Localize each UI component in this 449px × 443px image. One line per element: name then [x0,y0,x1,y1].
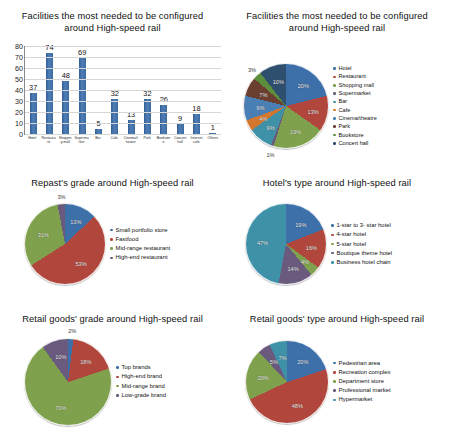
bar-plot: 377448695321332269181 01020304050607080 [24,46,221,135]
gridline [25,57,221,58]
legend-swatch-icon [331,261,334,264]
legend-item[interactable]: Concert hall [333,140,445,147]
bar[interactable] [160,105,167,134]
legend-item[interactable]: Shopping mall [333,82,445,89]
pie-facilities: 20%13%19%1%9%4%9%7%3%10% [243,63,329,149]
x-axis-label: Bookstore [155,136,171,144]
legend-label: 4-star hotel [337,231,366,238]
bar[interactable] [30,93,37,134]
legend-item[interactable]: Park [333,123,445,130]
legend-label: Small portfolio store [116,227,168,234]
legend-swatch-icon [333,92,336,95]
legend-item[interactable]: Cinema/theatre [333,115,445,122]
pie-repast: 13%53%31%3% [24,203,106,285]
legend-item[interactable]: Hypermarket [333,396,445,403]
pie-slice-label: 14% [288,266,299,272]
legend-item[interactable]: Bar [333,98,445,105]
pie-slice-label: 16% [306,245,317,251]
legend-item[interactable]: Fastfood [110,236,221,243]
bar[interactable] [111,99,118,134]
pie-slice-label: 1% [266,152,274,158]
legend-label: Hypermarket [339,396,373,403]
gridline [25,134,221,135]
gridline [25,101,221,102]
pie-slice-label: 19% [290,129,301,135]
legend-item[interactable]: Business hotel chain [331,259,445,266]
legend-item[interactable]: Recreation complex [333,369,445,376]
legend-item[interactable]: Hotel [333,65,445,72]
gridline [25,112,221,113]
bar[interactable] [193,114,200,134]
legend-item[interactable]: Low-grade brand [116,392,221,399]
pie-slice-label: 47% [257,240,268,246]
legend-label: Low-grade brand [122,392,167,399]
chart-title: Retail goods' type around High-speed rai… [225,305,449,326]
legend-swatch-icon [333,380,336,383]
legend-swatch-icon [116,366,119,369]
x-axis-label: Concert hall [172,136,188,144]
gridline [25,123,221,124]
gridline [25,90,221,91]
legend-label: Professional market [339,387,391,394]
legend-label: Fastfood [116,236,139,243]
legend-swatch-icon [333,389,336,392]
charts-grid: Facilities the most needed to be configu… [0,0,449,443]
legend-item[interactable]: 4-star hotel [331,231,445,238]
x-axis-label: Others [205,136,221,144]
legend-item[interactable]: Mid-range brand [116,383,221,390]
pie-slice-label: 10% [273,79,284,85]
legend-swatch-icon [333,125,336,128]
bar-chart-area: 377448695321332269181 01020304050607080 … [2,42,223,162]
legend-item[interactable]: Restaurant [333,73,445,80]
legend-item[interactable]: Bookstore [333,132,445,139]
legend-label: Mid-range restaurant [116,245,171,252]
legend-label: Pedestrian area [339,360,381,367]
legend-swatch-icon [333,371,336,374]
y-axis-tick: 80 [15,42,23,51]
legend-swatch-icon [333,101,336,104]
y-axis-tick: 10 [15,119,23,128]
pie-slice-label: 4% [259,116,267,122]
legend-item[interactable]: Department store [333,378,445,385]
gridline [25,79,221,80]
legend-label: Park [339,123,351,130]
legend-item[interactable]: 5-star hotel [331,241,445,248]
chart-facilities-bar: Facilities the most needed to be configu… [0,0,225,170]
pie-slice-label: 19% [295,222,306,228]
pie-slice-label: 18% [80,359,91,365]
pie-hotel-type: 19%16%4%14%47% [245,203,327,285]
bar[interactable] [144,99,151,134]
legend-swatch-icon [110,238,113,241]
y-axis-tick: 60 [15,64,23,73]
legend-item[interactable]: 1-star to 3- star hotel [331,222,445,229]
legend-item[interactable]: Boutique theme hotel [331,250,445,257]
bar[interactable] [128,120,135,134]
legend-item[interactable]: Pedestrian area [333,360,445,367]
pie-slice-label: 13% [308,109,319,115]
y-axis-tick: 40 [15,86,23,95]
legend-item[interactable]: Mid-range restaurant [110,245,221,252]
pie-legend: HotelRestaurantShopping mallSupermarketB… [329,64,445,148]
pie-slice-label: 48% [292,403,303,409]
legend-item[interactable]: Small portfolio store [110,227,221,234]
pie-slice-label: 10% [55,354,66,360]
chart-retail-type: Retail goods' type around High-speed rai… [225,305,449,443]
chart-title: Retail goods' grade around High-speed ra… [0,305,225,326]
chart-retail-grade: Retail goods' grade around High-speed ra… [0,305,225,443]
y-axis-tick: 70 [15,53,23,62]
bar-x-axis-labels: HotelRestaurantShopping mallSupermarketB… [24,136,221,144]
chart-hotel-type: Hotel's type around High-speed rail 19%1… [225,170,449,305]
legend-swatch-icon [333,362,336,365]
pie-retail-type: 20%48%20%5%7% [245,340,329,424]
bar[interactable] [46,53,53,134]
bar[interactable] [177,124,184,134]
legend-item[interactable]: High-end restaurant [110,254,221,261]
legend-swatch-icon [333,67,336,70]
pie-slice-label: 70% [55,405,66,411]
legend-item[interactable]: Professional market [333,387,445,394]
legend-item[interactable]: High-end brand [116,373,221,380]
legend-item[interactable]: Supermarket [333,90,445,97]
legend-item[interactable]: Cafe [333,107,445,114]
legend-item[interactable]: Top brands [116,364,221,371]
chart-title: Hotel's type around High-speed rail [225,170,449,190]
